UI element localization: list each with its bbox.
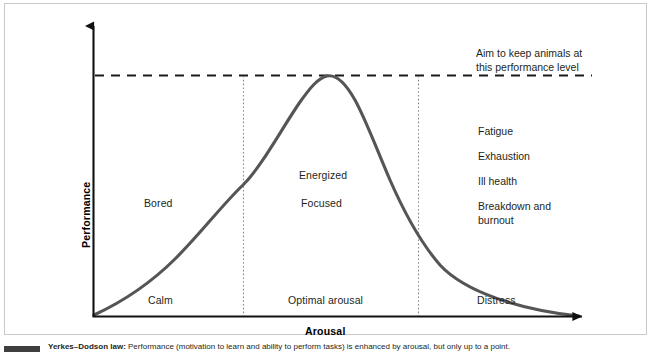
figure-caption: Yerkes–Dodson law: Performance (motivati… — [48, 343, 510, 352]
caption-rest: Performance (motivation to learn and abi… — [126, 343, 510, 351]
figure-page: Aim to keep animals at this performance … — [0, 0, 651, 353]
zone-label-focused: Focused — [301, 196, 342, 211]
zone-label-bored: Bored — [144, 196, 173, 211]
zone-label-energized: Energized — [299, 168, 347, 183]
performance-level-annotation: Aim to keep animals at this performance … — [476, 46, 646, 74]
zone-label-distress: Distress — [477, 293, 516, 308]
caption-marker-icon — [4, 346, 40, 352]
x-axis-title: Arousal — [305, 325, 346, 337]
y-axis-title: Performance — [80, 182, 92, 248]
zone-label-optimal-arousal: Optimal arousal — [288, 293, 363, 308]
outcome-label-exhaustion: Exhaustion — [478, 149, 530, 163]
zone-label-calm: Calm — [148, 293, 173, 308]
outcome-label-fatigue: Fatigue — [478, 124, 513, 138]
outcome-label-ill-health: Ill health — [478, 174, 517, 188]
caption-prefix: Yerkes–Dodson law: — [48, 343, 126, 351]
figure-caption-strip: Yerkes–Dodson law: Performance (motivati… — [4, 343, 647, 353]
outcome-label-breakdown-burnout: Breakdown and burnout — [478, 199, 551, 227]
